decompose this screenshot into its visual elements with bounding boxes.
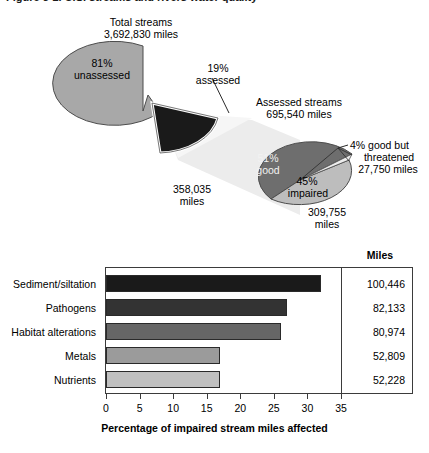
pie-diagram: Total streams 3,692,830 miles 81% unasse… bbox=[0, 0, 429, 245]
bar-category-label-4: Nutrients bbox=[54, 374, 96, 386]
bar-habitat-alterations bbox=[106, 323, 281, 340]
pie2-title-line2: 695,540 miles bbox=[235, 108, 363, 120]
pie1-label-assessed-text: assessed bbox=[183, 74, 253, 86]
x-tick-label-15: 15 bbox=[195, 402, 219, 414]
miles-value-2: 80,974 bbox=[345, 326, 405, 338]
pie-diagram-svg bbox=[0, 0, 429, 245]
x-tick-label-10: 10 bbox=[161, 402, 185, 414]
bar-sediment-siltation bbox=[106, 275, 321, 292]
pie2-value-good-line2: miles bbox=[160, 195, 224, 207]
x-tick-mark-0 bbox=[106, 394, 107, 399]
pie1-title-line2: 3,692,830 miles bbox=[76, 28, 206, 40]
x-tick-mark-30 bbox=[307, 394, 308, 399]
x-tick-mark-20 bbox=[240, 394, 241, 399]
x-tick-mark-35 bbox=[341, 394, 342, 399]
pie2-value-impaired-line2: miles bbox=[295, 218, 359, 230]
x-tick-mark-15 bbox=[207, 394, 208, 399]
pie2-label-threatened-line2: threatened bbox=[352, 151, 426, 163]
miles-column-header: Miles bbox=[350, 249, 410, 261]
bar-category-label-3: Metals bbox=[65, 350, 96, 362]
figure-stream-water-quality: Figure 3-2. U.S. streams and rivers wate… bbox=[0, 0, 429, 453]
bar-metals bbox=[106, 347, 220, 364]
pie1-title-line1: Total streams bbox=[76, 16, 206, 28]
x-tick-mark-5 bbox=[140, 394, 141, 399]
pie1-slice-unassessed bbox=[53, 41, 160, 125]
x-tick-mark-10 bbox=[173, 394, 174, 399]
bar-nutrients bbox=[106, 371, 220, 388]
pie2-value-impaired-line1: 309,755 bbox=[295, 206, 359, 218]
x-tick-label-35: 35 bbox=[329, 402, 353, 414]
pie1-label-assessed-percent: 19% bbox=[188, 62, 248, 74]
bar-category-label-1: Pathogens bbox=[46, 302, 96, 314]
pie2-title-line1: Assessed streams bbox=[235, 96, 363, 108]
x-tick-label-20: 20 bbox=[228, 402, 252, 414]
pie1-label-unassessed-percent: 81% bbox=[62, 57, 142, 69]
bar-category-label-2: Habitat alterations bbox=[11, 326, 96, 338]
miles-value-4: 52,228 bbox=[345, 374, 405, 386]
pie2-label-impaired-percent: 45% bbox=[287, 175, 327, 187]
x-axis-title: Percentage of impaired stream miles affe… bbox=[0, 422, 429, 434]
pie2-label-good-percent: 51% bbox=[248, 152, 288, 164]
pie2-value-good-line1: 358,035 bbox=[160, 183, 224, 195]
bar-category-label-0: Sediment/siltation bbox=[13, 278, 96, 290]
pie1-label-unassessed-text: unassessed bbox=[52, 69, 152, 81]
pie2-value-threatened: 27,750 miles bbox=[346, 163, 429, 175]
miles-value-3: 52,809 bbox=[345, 350, 405, 362]
bar-pathogens bbox=[106, 299, 287, 316]
x-tick-label-0: 0 bbox=[94, 402, 118, 414]
pie2-label-threatened-line1: 4% good but bbox=[350, 139, 429, 151]
pie2-label-good-text: good bbox=[246, 164, 290, 176]
x-tick-label-25: 25 bbox=[262, 402, 286, 414]
miles-value-0: 100,446 bbox=[345, 278, 405, 290]
pie2-label-impaired-text: impaired bbox=[278, 187, 338, 199]
x-tick-label-5: 5 bbox=[128, 402, 152, 414]
x-tick-mark-25 bbox=[274, 394, 275, 399]
x-tick-label-30: 30 bbox=[295, 402, 319, 414]
bar-chart: Miles Sediment/siltation Pathogens Habit… bbox=[0, 245, 429, 453]
miles-value-1: 82,133 bbox=[345, 302, 405, 314]
